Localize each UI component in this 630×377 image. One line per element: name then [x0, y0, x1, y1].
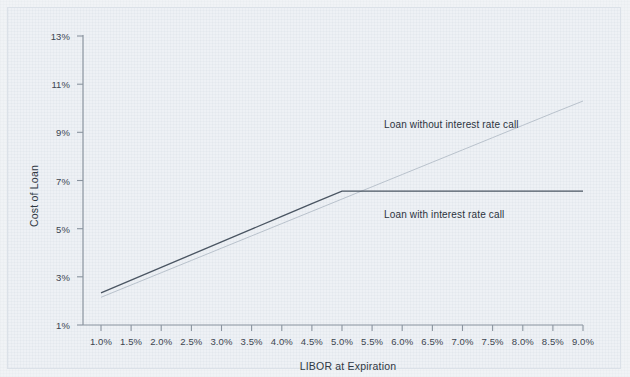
series-line-loan-with-call: [101, 191, 583, 293]
x-tick-label: 2.5%: [180, 336, 202, 347]
annotation-loan-with-call: Loan with interest rate call: [384, 209, 504, 220]
x-tick-label: 4.0%: [271, 336, 293, 347]
x-tick-label: 3.5%: [241, 336, 263, 347]
y-tick-label: 3%: [26, 271, 70, 282]
x-tick-label: 5.0%: [331, 336, 353, 347]
y-tick-label: 9%: [26, 127, 70, 138]
x-axis-ticks: [101, 325, 583, 331]
annotation-loan-without-call: Loan without interest rate call: [384, 119, 519, 130]
x-tick-label: 3.0%: [210, 336, 232, 347]
x-tick-label: 4.5%: [301, 336, 323, 347]
y-tick-label: 11%: [26, 79, 70, 90]
series-line-loan-without-call: [101, 101, 583, 297]
y-axis-ticks: [77, 36, 83, 325]
x-tick-label: 2.0%: [150, 336, 172, 347]
x-tick-label: 8.0%: [512, 336, 534, 347]
x-tick-label: 9.0%: [572, 336, 594, 347]
x-tick-label: 6.5%: [421, 336, 443, 347]
y-axis-title: Cost of Loan: [28, 165, 40, 227]
x-tick-label: 1.0%: [90, 336, 112, 347]
plot-area: [8, 8, 622, 370]
x-tick-label: 7.0%: [451, 336, 473, 347]
x-axis-title: LIBOR at Expiration: [300, 360, 397, 372]
chart-panel: 13% 11% 9% 7% 5% 3% 1% 1.0% 1.5% 2.0% 2.…: [7, 7, 621, 369]
y-tick-label: 13%: [26, 31, 70, 42]
x-tick-label: 1.5%: [120, 336, 142, 347]
x-tick-label: 6.0%: [391, 336, 413, 347]
x-tick-label: 8.5%: [542, 336, 564, 347]
chart-figure: 13% 11% 9% 7% 5% 3% 1% 1.0% 1.5% 2.0% 2.…: [0, 0, 630, 377]
x-tick-label: 5.5%: [361, 336, 383, 347]
y-tick-label: 1%: [26, 320, 70, 331]
x-tick-label: 7.5%: [482, 336, 504, 347]
